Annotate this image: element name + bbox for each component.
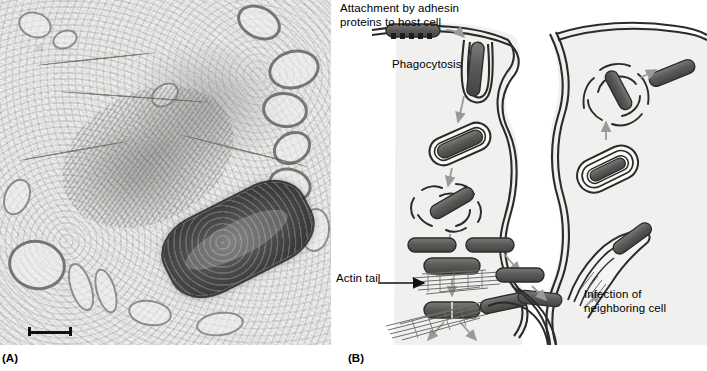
- actin-tail-fibres-lower: [386, 302, 488, 340]
- scale-bar-cap-right: [69, 327, 72, 336]
- label-attachment: Attachment by adhesin proteins to host c…: [340, 2, 459, 29]
- daughter-bacterium-right: [466, 238, 514, 252]
- panel-a-tag: (A): [2, 352, 18, 364]
- label-phagocytosis: Phagocytosis: [392, 58, 462, 72]
- scale-bar: [28, 327, 72, 336]
- bacterium-with-tail-upper: [496, 268, 544, 282]
- figure-root: Attachment by adhesin proteins to host c…: [0, 0, 707, 371]
- motile-bacterium-lower: [386, 291, 529, 340]
- actin-tail-leader-arrow: [378, 275, 438, 291]
- panel-a-micrograph: [0, 0, 331, 345]
- daughter-bacterium-left: [408, 238, 456, 252]
- label-infection-neighboring-cell: Infection of neighboring cell: [584, 288, 666, 315]
- label-actin-tail: Actin tail: [336, 272, 380, 286]
- scale-bar-line: [28, 331, 72, 334]
- panel-b-tag: (B): [348, 352, 364, 364]
